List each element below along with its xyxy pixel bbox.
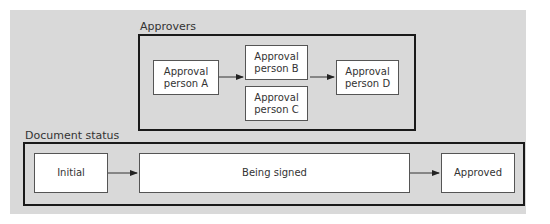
node-label: Initial	[57, 167, 85, 179]
node-label: Approved	[454, 167, 502, 179]
document-status-group-label: Document status	[25, 129, 119, 142]
node-approved: Approved	[441, 153, 515, 193]
node-label: Being signed	[242, 167, 307, 179]
node-approval-person-d: Approval person D	[336, 60, 399, 95]
node-approval-person-b: Approval person B	[245, 45, 308, 80]
node-initial: Initial	[34, 153, 108, 193]
node-approval-person-a: Approval person A	[153, 60, 219, 95]
node-label: Approval person D	[345, 66, 390, 90]
node-label: Approval person B	[254, 51, 298, 75]
node-label: Approval person A	[164, 66, 208, 90]
node-approval-person-c: Approval person C	[245, 86, 308, 121]
node-being-signed: Being signed	[139, 153, 410, 193]
approvers-group-label: Approvers	[140, 20, 196, 33]
node-label: Approval person C	[254, 92, 298, 116]
